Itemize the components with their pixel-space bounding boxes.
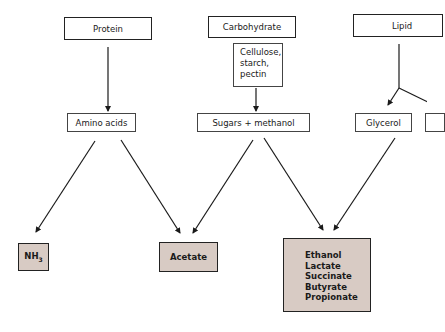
detail-cellulose: Cellulose, [240, 47, 281, 58]
nh3-box: NH3 [18, 243, 49, 271]
sugars-methanol-box: Sugars + methanol [197, 113, 310, 132]
arrow-amino-nh3 [36, 141, 95, 232]
carbohydrate-box: Carbohydrate [208, 16, 296, 38]
arrow-sugars-products [264, 138, 323, 230]
amino-acids-label: Amino acids [76, 118, 128, 128]
protein-label: Protein [93, 24, 123, 34]
arrow-sugars-acetate [193, 140, 253, 233]
arrow-lipid-glycerol [388, 88, 399, 105]
glycerol-box: Glycerol [355, 113, 412, 132]
offscreen-intermediate-box [425, 113, 445, 132]
sugars-methanol-label: Sugars + methanol [212, 118, 294, 128]
product-succinate: Succinate [305, 271, 358, 282]
product-ethanol: Ethanol [305, 250, 358, 261]
acetate-box: Acetate [159, 242, 218, 272]
protein-box: Protein [64, 17, 152, 40]
line-lipid-right [399, 88, 427, 103]
nh3-label: NH3 [24, 251, 42, 263]
arrow-glycerol-products [334, 138, 395, 230]
product-lactate: Lactate [305, 261, 358, 272]
acetate-label: Acetate [170, 252, 207, 262]
product-butyrate: Butyrate [305, 282, 358, 293]
arrow-amino-acetate [121, 140, 180, 233]
detail-starch: starch, [240, 58, 281, 69]
amino-acids-box: Amino acids [67, 113, 136, 132]
lipid-label: Lipid [392, 21, 412, 31]
detail-pectin: pectin [240, 69, 281, 80]
product-propionate: Propionate [305, 292, 358, 303]
carbohydrate-detail-box: Cellulose, starch, pectin [233, 43, 283, 87]
fermentation-products-box: Ethanol Lactate Succinate Butyrate Propi… [283, 238, 371, 312]
carbohydrate-label: Carbohydrate [223, 22, 281, 32]
lipid-box: Lipid [353, 14, 443, 37]
glycerol-label: Glycerol [366, 118, 401, 128]
